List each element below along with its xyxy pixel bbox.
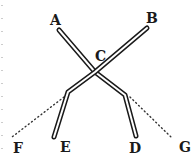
- dotted-lines: [12, 97, 172, 138]
- label-C: C: [95, 48, 106, 64]
- point-labels: A B C D E F G: [13, 10, 191, 156]
- label-A: A: [49, 12, 62, 28]
- label-F: F: [13, 140, 23, 156]
- label-E: E: [60, 139, 71, 155]
- rods: [54, 28, 147, 137]
- label-B: B: [146, 10, 158, 26]
- label-G: G: [179, 139, 191, 155]
- label-D: D: [129, 140, 141, 156]
- crossed-rods-diagram: A B C D E F G: [0, 0, 196, 162]
